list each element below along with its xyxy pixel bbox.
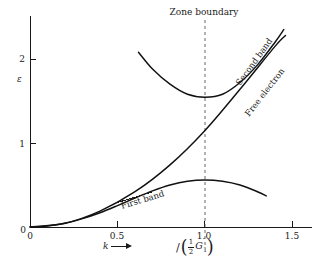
x-tick-marks xyxy=(117,221,292,227)
plot-canvas: 0 1 2 0 0.5 1.0 1.5 First band Second ba… xyxy=(0,0,326,272)
energy-band-figure: 0 1 2 0 0.5 1.0 1.5 First band Second ba… xyxy=(0,0,326,272)
y-tick-label-0: 0 xyxy=(20,225,26,235)
label-first-band-group: First band xyxy=(116,188,166,211)
y-tick-marks xyxy=(30,59,36,143)
y-tick-label-2: 2 xyxy=(19,54,25,64)
y-tick-label-1: 1 xyxy=(19,139,25,149)
x-tick-label-1.0: 1.0 xyxy=(197,231,212,241)
label-zone-boundary: Zone boundary xyxy=(170,7,240,17)
x-tick-label-0.5: 0.5 xyxy=(110,231,125,241)
x-tick-label-0: 0 xyxy=(27,231,33,241)
curve-first-band xyxy=(30,180,266,227)
label-first-band: First band xyxy=(120,188,166,211)
x-tick-label-1.5: 1.5 xyxy=(285,231,300,241)
